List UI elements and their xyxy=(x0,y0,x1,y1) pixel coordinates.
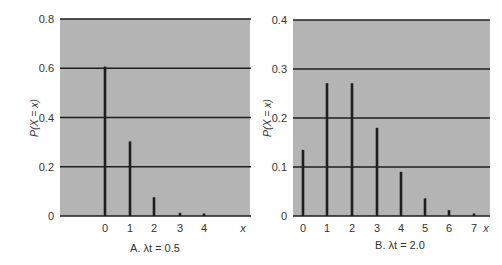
bar xyxy=(203,214,206,217)
chart-b: 00.10.20.30.4 01234567 P(X = x) x B. λt … xyxy=(261,14,490,251)
y-tick-label: 0.8 xyxy=(39,13,54,25)
x-tick-label: 0 xyxy=(300,222,306,234)
bar xyxy=(326,83,329,216)
y-tick-label: 0 xyxy=(281,210,287,222)
y-tick-label: 0.4 xyxy=(39,112,54,124)
chart-b-x-ticks: 01234567 xyxy=(300,222,477,234)
poisson-charts: 00.20.40.60.8 01234 P(X = x) x A. λt = 0… xyxy=(0,0,502,265)
bar xyxy=(129,141,132,216)
y-tick-label: 0.2 xyxy=(39,161,54,173)
x-tick-label: 0 xyxy=(102,222,108,234)
x-tick-label: 6 xyxy=(446,222,452,234)
bar xyxy=(376,128,379,216)
chart-b-y-axis-label: P(X = x) xyxy=(261,99,273,137)
x-tick-label: 2 xyxy=(349,222,355,234)
bar xyxy=(351,83,354,216)
y-tick-label: 0.6 xyxy=(39,62,54,74)
bar xyxy=(104,67,107,216)
chart-b-title: B. λt = 2.0 xyxy=(375,239,425,251)
x-tick-label: 4 xyxy=(201,222,207,234)
chart-b-y-ticks: 00.10.20.30.4 xyxy=(272,14,287,222)
bar xyxy=(400,172,403,216)
x-tick-label: 1 xyxy=(127,222,133,234)
chart-a-x-axis-label: x xyxy=(239,222,246,234)
x-tick-label: 7 xyxy=(471,222,477,234)
x-tick-label: 3 xyxy=(374,222,380,234)
chart-b-x-axis-label: x xyxy=(482,222,489,234)
bar xyxy=(448,210,451,216)
y-tick-label: 0.1 xyxy=(272,161,287,173)
x-tick-label: 2 xyxy=(151,222,157,234)
y-tick-label: 0.4 xyxy=(272,14,287,26)
bar xyxy=(153,197,156,216)
bar xyxy=(424,198,427,216)
x-tick-label: 3 xyxy=(177,222,183,234)
y-tick-label: 0 xyxy=(48,210,54,222)
y-tick-label: 0.2 xyxy=(272,112,287,124)
bar xyxy=(473,214,476,217)
chart-a-title: A. λt = 0.5 xyxy=(130,242,180,254)
x-tick-label: 1 xyxy=(324,222,330,234)
bar xyxy=(302,150,305,216)
y-tick-label: 0.3 xyxy=(272,63,287,75)
x-tick-label: 4 xyxy=(398,222,404,234)
chart-a: 00.20.40.60.8 01234 P(X = x) x A. λt = 0… xyxy=(28,13,251,254)
chart-a-y-axis-label: P(X = x) xyxy=(28,99,40,137)
chart-a-x-ticks: 01234 xyxy=(102,222,207,234)
chart-a-y-ticks: 00.20.40.60.8 xyxy=(39,13,54,222)
bar xyxy=(179,213,182,216)
x-tick-label: 5 xyxy=(422,222,428,234)
